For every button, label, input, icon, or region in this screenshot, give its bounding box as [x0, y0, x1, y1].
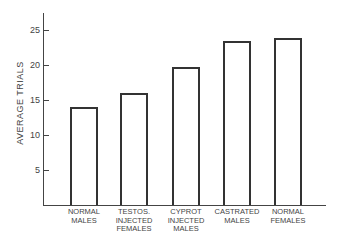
- category-label-line: FEMALES: [263, 217, 313, 226]
- y-tick: [43, 65, 49, 66]
- y-tick-label: 20: [20, 60, 40, 70]
- bar: [223, 41, 251, 205]
- y-tick: [43, 30, 49, 31]
- x-category-label: TESTOS.INJECTEDFEMALES: [109, 208, 159, 234]
- y-tick-label: 15: [20, 95, 40, 105]
- y-tick: [43, 170, 49, 171]
- category-label-line: MALES: [59, 217, 109, 226]
- y-tick: [43, 100, 49, 101]
- y-tick-label: 10: [20, 130, 40, 140]
- y-axis: [43, 13, 44, 206]
- x-category-label: CYPROTINJECTEDMALES: [161, 208, 211, 234]
- category-label-line: FEMALES: [109, 225, 159, 234]
- y-tick-label: 5: [20, 165, 40, 175]
- bar: [172, 67, 200, 205]
- bar: [70, 107, 98, 205]
- y-tick-label: 25: [20, 25, 40, 35]
- bar: [120, 93, 148, 205]
- x-axis: [43, 205, 326, 206]
- x-category-label: NORMALMALES: [59, 208, 109, 225]
- category-label-line: MALES: [161, 225, 211, 234]
- bar: [274, 38, 302, 205]
- y-tick: [43, 135, 49, 136]
- x-category-label: CASTRATEDMALES: [212, 208, 262, 225]
- category-label-line: MALES: [212, 217, 262, 226]
- bar-chart: AVERAGE TRIALS 510152025 NORMALMALESTEST…: [0, 0, 338, 245]
- x-category-label: NORMALFEMALES: [263, 208, 313, 225]
